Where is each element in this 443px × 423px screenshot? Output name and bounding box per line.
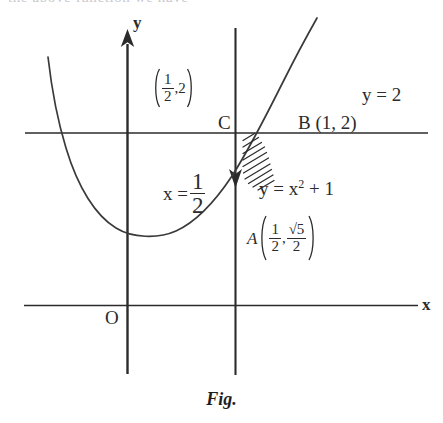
fraction-numerator: 1 [162, 72, 174, 88]
coordinate-half-two-label: 1 2 , 2 [152, 68, 195, 111]
parabola-equation-rhs: + 1 [309, 178, 334, 199]
x-axis-label: x [422, 296, 431, 313]
point-a-coordinate-label: A 1 2 , √5 2 [247, 215, 317, 261]
coordinate-second-value: 2 [178, 81, 186, 96]
comma-separator: , [282, 231, 286, 246]
fraction-numerator: 1 [190, 170, 206, 194]
figure-graphics [0, 0, 443, 423]
left-paren-icon [152, 68, 161, 108]
point-a-group: A 1 2 , √5 2 [247, 215, 317, 261]
fraction-numerator: 1 [269, 222, 281, 238]
parabola-equation-exponent: 2 [298, 177, 304, 191]
parabola-equation-lhs: y = x [259, 178, 298, 199]
fraction-one-half: 1 2 [269, 222, 281, 254]
vertical-line-equation-lhs: x = [163, 184, 188, 203]
fraction-one-half-large: 1 2 [190, 170, 206, 218]
vertical-line-equation-label: x = 1 2 [163, 170, 206, 218]
figure-caption: Fig. [0, 389, 443, 410]
fraction-sqrt5-over-2: √5 2 [287, 222, 307, 254]
fraction-denominator: 2 [287, 239, 307, 254]
right-paren-icon [186, 68, 195, 108]
parabola-equation-label: y = x2 + 1 [259, 178, 334, 198]
fraction-numerator: √5 [287, 222, 307, 238]
line-y2-label: y = 2 [362, 85, 401, 104]
point-a-letter: A [247, 230, 257, 247]
vertical-line-equation-group: x = 1 2 [163, 170, 206, 218]
point-c-label: C [218, 113, 231, 132]
origin-label: O [105, 308, 119, 327]
fraction-denominator: 2 [162, 89, 174, 104]
fraction-denominator: 2 [269, 239, 281, 254]
right-paren-icon [307, 215, 317, 261]
fraction-denominator: 2 [190, 194, 206, 217]
point-b-label: B (1, 2) [298, 113, 357, 132]
left-paren-icon [258, 215, 268, 261]
fraction-one-half: 1 2 [162, 72, 174, 104]
y-axis-label: y [133, 14, 142, 31]
coordinate-half-two-group: 1 2 , 2 [152, 68, 195, 108]
figure-canvas: the above function we have [0, 0, 443, 423]
